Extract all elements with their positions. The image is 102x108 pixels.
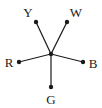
node-label-b: B <box>89 56 98 71</box>
node-g <box>49 85 53 89</box>
node-label-r: R <box>5 55 14 70</box>
edge-r <box>19 54 51 62</box>
edge-y <box>36 22 51 54</box>
node-label-g: G <box>46 92 55 107</box>
node-label-y: Y <box>23 5 33 20</box>
node-y <box>34 20 38 24</box>
edge-w <box>51 22 67 54</box>
center-node <box>49 52 53 56</box>
node-r <box>17 60 21 64</box>
node-b <box>81 60 85 64</box>
node-w <box>65 20 69 24</box>
star-graph-diagram: YWRBG <box>0 0 102 108</box>
edge-b <box>51 54 83 62</box>
node-label-w: W <box>70 5 83 20</box>
